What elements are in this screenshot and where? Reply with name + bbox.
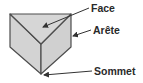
edge-label: Arête	[93, 24, 120, 36]
vertex-label: Sommet	[94, 65, 136, 77]
prism-shape	[10, 14, 71, 74]
vertex-arrow	[44, 71, 92, 75]
face-label: Face	[91, 2, 115, 14]
annotation-labels: Face Arête Sommet	[91, 2, 136, 77]
triangular-prism-diagram: Face Arête Sommet	[0, 0, 143, 83]
edge-arrow	[73, 30, 91, 36]
